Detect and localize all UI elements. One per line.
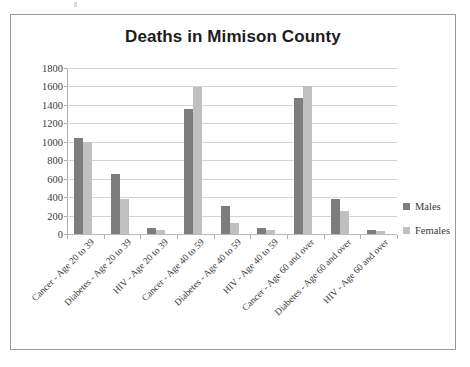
bar-females[interactable] <box>156 230 165 234</box>
chart-container: Deaths in Mimison County 180016001400120… <box>10 14 456 350</box>
x-category-label: Cancer - Age 60 and over <box>240 237 316 313</box>
bar-group[interactable] <box>104 68 141 234</box>
x-category-label: Cancer - Age 40 to 59 <box>140 237 206 303</box>
bar-males[interactable] <box>294 98 303 234</box>
legend-swatch-icon <box>403 203 410 210</box>
bar-females[interactable] <box>340 211 349 234</box>
y-tick-label-1600: 1600 <box>11 81 63 92</box>
bar-females[interactable] <box>193 87 202 234</box>
y-tick-label-1000: 1000 <box>11 136 63 147</box>
y-tick-label-1800: 1800 <box>11 63 63 74</box>
bar-females[interactable] <box>120 199 129 234</box>
legend-item-males[interactable]: Males <box>403 201 450 212</box>
y-axis-tick-labels: 180016001400120010008006004002000 <box>11 68 63 234</box>
bar-males[interactable] <box>74 138 83 234</box>
plot-area <box>67 68 397 234</box>
bar-group[interactable] <box>140 68 177 234</box>
bar-females[interactable] <box>303 86 312 234</box>
bar-group[interactable] <box>214 68 251 234</box>
x-category-label: Diabetes - Age 40 to 59 <box>172 237 243 308</box>
bar-males[interactable] <box>111 174 120 234</box>
bar-males[interactable] <box>367 230 376 234</box>
bar-females[interactable] <box>83 142 92 234</box>
bar-group[interactable] <box>360 68 397 234</box>
legend-label: Males <box>415 201 441 212</box>
y-tick-label-600: 600 <box>11 173 63 184</box>
chart-legend: MalesFemales <box>403 201 450 249</box>
bar-group[interactable] <box>287 68 324 234</box>
bar-group[interactable] <box>67 68 104 234</box>
y-tick-label-400: 400 <box>11 192 63 203</box>
x-axis-category-labels: Cancer - Age 20 to 39Diabetes - Age 20 t… <box>67 237 397 362</box>
y-tick-label-200: 200 <box>11 210 63 221</box>
bar-females[interactable] <box>376 231 385 234</box>
legend-label: Females <box>415 225 450 236</box>
bar-males[interactable] <box>331 199 340 234</box>
bar-females[interactable] <box>230 223 239 234</box>
y-tick-label-1200: 1200 <box>11 118 63 129</box>
y-tick-label-1400: 1400 <box>11 99 63 110</box>
x-tick-mark <box>397 235 398 239</box>
x-category-label: HIV - Age 60 and over <box>321 237 390 306</box>
bar-group[interactable] <box>177 68 214 234</box>
bar-males[interactable] <box>184 109 193 234</box>
scan-artifact <box>74 2 77 7</box>
y-tick-label-800: 800 <box>11 155 63 166</box>
bar-group[interactable] <box>324 68 361 234</box>
bar-group[interactable] <box>250 68 287 234</box>
chart-title: Deaths in Mimison County <box>11 27 455 47</box>
x-category-label: Cancer - Age 20 to 39 <box>30 237 96 303</box>
gridline-0 <box>67 234 397 235</box>
legend-swatch-icon <box>403 227 410 234</box>
legend-item-females[interactable]: Females <box>403 225 450 236</box>
bar-males[interactable] <box>147 228 156 234</box>
x-category-label: Diabetes - Age 20 to 39 <box>62 237 133 308</box>
bar-males[interactable] <box>257 228 266 234</box>
bar-females[interactable] <box>266 230 275 234</box>
bar-males[interactable] <box>221 206 230 234</box>
y-tick-label-0: 0 <box>11 229 63 240</box>
